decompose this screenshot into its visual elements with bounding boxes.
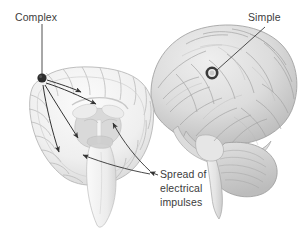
label-spread-line2: electrical	[160, 182, 202, 194]
brain-diagram-figure: Complex Simple Spread of electrical impu…	[0, 0, 303, 231]
label-simple: Simple	[248, 11, 281, 23]
label-complex: Complex	[15, 11, 58, 23]
complex-focus-marker	[37, 73, 46, 82]
label-spread-line3: impulses	[160, 196, 202, 208]
coronal-section-view	[29, 67, 154, 227]
label-spread-line1: Spread of	[160, 168, 206, 180]
simple-focus-center	[210, 71, 215, 76]
spread-leader-label-arrow	[150, 172, 158, 175]
cerebrum-lateral	[151, 25, 297, 145]
complex-focus-highlight	[39, 75, 42, 78]
brain-illustration-svg: Complex Simple Spread of electrical impu…	[0, 0, 303, 231]
